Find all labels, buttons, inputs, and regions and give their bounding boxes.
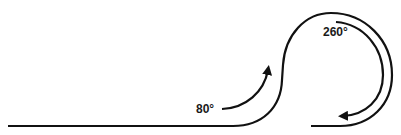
label-260: 260° xyxy=(323,25,348,39)
label-80: 80° xyxy=(196,102,214,116)
turn-arrow-80 xyxy=(222,70,268,109)
loop-diagram: 80° 260° xyxy=(0,0,401,135)
